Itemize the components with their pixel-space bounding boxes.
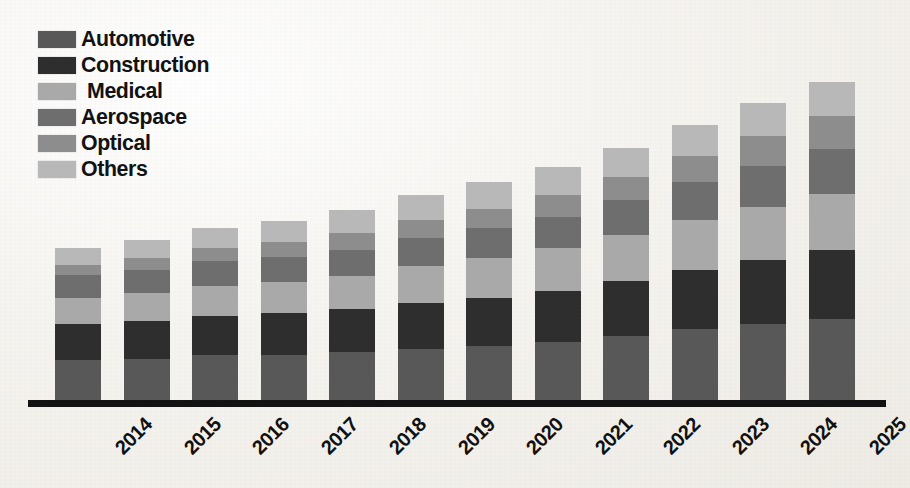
legend-item-label: Others	[81, 157, 147, 181]
bar-segment-automotive	[740, 324, 786, 400]
bar-2017	[261, 221, 307, 400]
legend-swatch-icon-others	[38, 161, 76, 178]
bar-segment-optical	[740, 136, 786, 166]
bar-segment-others	[809, 82, 855, 117]
chart-page: AutomotiveConstructionMedicalAerospaceOp…	[0, 0, 910, 488]
bar-segment-medical	[398, 266, 444, 302]
bar-segment-construction	[192, 316, 238, 356]
bar-segment-medical	[740, 207, 786, 260]
bar-segment-optical	[398, 220, 444, 238]
bar-segment-construction	[535, 291, 581, 342]
bar-segment-medical	[192, 286, 238, 316]
legend-item-automotive: Automotive	[38, 26, 213, 52]
bar-segment-optical	[603, 177, 649, 200]
bar-segment-aerospace	[55, 275, 101, 298]
bar-segment-medical	[603, 235, 649, 281]
bar-segment-others	[740, 103, 786, 136]
x-axis-label-2019: 2019	[453, 413, 499, 459]
bar-segment-others	[329, 210, 375, 233]
bar-segment-construction	[55, 324, 101, 360]
bar-segment-others	[261, 221, 307, 242]
bar-segment-optical	[809, 116, 855, 149]
legend-item-label: Optical	[81, 131, 151, 155]
bar-segment-aerospace	[124, 270, 170, 293]
bar-2021	[535, 167, 581, 400]
legend-item-medical: Medical	[38, 78, 213, 104]
bar-segment-medical	[261, 282, 307, 313]
x-axis-labels: 2014201520162017201820192020202120222023…	[55, 407, 855, 477]
bar-segment-optical	[192, 248, 238, 261]
bar-2018	[329, 210, 375, 400]
bar-segment-automotive	[535, 342, 581, 400]
x-axis-label-2022: 2022	[659, 413, 705, 459]
legend-item-aerospace: Aerospace	[38, 104, 213, 130]
bar-segment-automotive	[398, 349, 444, 400]
x-axis-line	[28, 400, 886, 407]
bar-segment-automotive	[329, 352, 375, 400]
bar-segment-automotive	[466, 346, 512, 400]
bar-segment-aerospace	[740, 166, 786, 207]
bar-segment-aerospace	[261, 257, 307, 282]
bar-segment-others	[466, 182, 512, 208]
x-axis-label-2025: 2025	[864, 413, 910, 459]
bar-segment-aerospace	[809, 149, 855, 194]
bar-segment-automotive	[603, 336, 649, 400]
bar-2014	[55, 248, 101, 400]
bar-2024	[740, 103, 786, 400]
x-axis-label-2024: 2024	[796, 413, 842, 459]
legend-swatch-icon-optical	[38, 135, 76, 152]
bar-segment-medical	[55, 298, 101, 324]
bar-2015	[124, 240, 170, 400]
x-axis-label-2020: 2020	[522, 413, 568, 459]
bar-segment-automotive	[809, 319, 855, 400]
bar-segment-others	[535, 167, 581, 195]
legend-item-optical: Optical	[38, 130, 213, 156]
bar-segment-medical	[672, 220, 718, 270]
bar-segment-medical	[124, 293, 170, 321]
bar-segment-automotive	[192, 355, 238, 400]
bar-segment-others	[398, 195, 444, 220]
bar-segment-others	[192, 228, 238, 248]
x-axis-label-2014: 2014	[110, 413, 156, 459]
legend-swatch-icon-automotive	[38, 31, 76, 48]
legend-item-label: Aerospace	[81, 105, 187, 129]
bar-segment-construction	[398, 303, 444, 349]
legend-swatch-icon-aerospace	[38, 109, 76, 126]
x-axis-label-2023: 2023	[727, 413, 773, 459]
bar-2022	[603, 148, 649, 400]
bar-segment-construction	[809, 250, 855, 319]
x-axis-label-2021: 2021	[590, 413, 636, 459]
bar-segment-aerospace	[535, 217, 581, 248]
bar-segment-optical	[261, 242, 307, 257]
chart-legend: AutomotiveConstructionMedicalAerospaceOp…	[38, 26, 213, 182]
legend-swatch-icon-medical	[38, 83, 76, 100]
bar-segment-construction	[603, 281, 649, 335]
bar-2023	[672, 125, 718, 401]
bar-segment-medical	[466, 258, 512, 298]
legend-swatch-icon-construction	[38, 57, 76, 74]
bar-segment-others	[672, 125, 718, 156]
bar-segment-optical	[466, 209, 512, 229]
bar-segment-automotive	[672, 329, 718, 400]
legend-item-label: Construction	[81, 53, 209, 77]
bar-segment-medical	[329, 276, 375, 309]
x-axis-label-2015: 2015	[179, 413, 225, 459]
legend-item-construction: Construction	[38, 52, 213, 78]
bar-segment-automotive	[55, 360, 101, 400]
bar-2019	[398, 195, 444, 400]
bar-segment-construction	[466, 298, 512, 346]
x-axis-label-2017: 2017	[316, 413, 362, 459]
bar-segment-aerospace	[466, 228, 512, 258]
bar-segment-optical	[124, 258, 170, 270]
bar-segment-construction	[124, 321, 170, 359]
bar-segment-aerospace	[672, 182, 718, 220]
bar-segment-aerospace	[192, 261, 238, 286]
bar-segment-others	[603, 148, 649, 178]
bar-segment-optical	[329, 233, 375, 250]
bar-segment-aerospace	[398, 238, 444, 266]
bar-segment-medical	[809, 194, 855, 250]
bar-segment-optical	[672, 156, 718, 182]
bar-2016	[192, 228, 238, 400]
bar-segment-automotive	[261, 355, 307, 400]
bar-segment-optical	[55, 265, 101, 275]
